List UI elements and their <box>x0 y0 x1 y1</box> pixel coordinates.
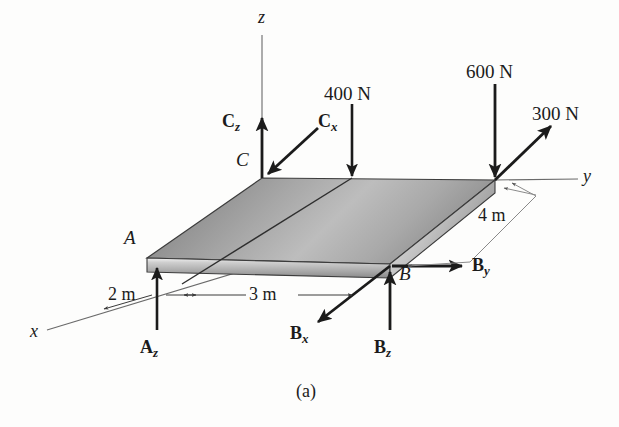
y-axis-label: y <box>583 167 591 185</box>
plate-top-face <box>147 178 495 264</box>
figure-canvas: z y x A B C 400 N 600 N 300 N Cz Cx Az B… <box>0 0 619 427</box>
reaction-az-label: Az <box>140 338 158 360</box>
reaction-cz-label: Cz <box>222 112 240 134</box>
x-axis-label: x <box>30 322 38 340</box>
reaction-cz-base: C <box>222 111 235 131</box>
reaction-bz-base: B <box>374 337 386 357</box>
y-axis-line <box>495 179 578 180</box>
reaction-cx-sub: x <box>331 119 337 134</box>
reaction-by-label: By <box>472 256 490 278</box>
load-600n-label: 600 N <box>466 62 513 81</box>
reaction-az-base: A <box>140 337 153 357</box>
diagram-svg <box>0 0 619 427</box>
load-300n-label: 300 N <box>532 104 579 123</box>
reaction-cz-sub: z <box>235 119 240 134</box>
dimension-3m-label: 3 m <box>249 285 277 303</box>
reaction-cx-label: Cx <box>318 112 337 134</box>
reaction-bx-sub: x <box>302 331 308 346</box>
reaction-by-sub: y <box>484 263 490 278</box>
y-axis-tick-leader <box>512 183 536 196</box>
reaction-bz-sub: z <box>386 345 391 360</box>
point-b-label: B <box>399 264 411 283</box>
load-300n-arrow <box>495 126 551 180</box>
load-400n-label: 400 N <box>324 84 371 103</box>
reaction-cx-arrow <box>268 128 318 174</box>
reaction-bx-label: Bx <box>290 324 309 346</box>
reaction-az-sub: z <box>153 345 158 360</box>
z-axis-label: z <box>258 8 265 26</box>
reaction-cx-base: C <box>318 111 331 131</box>
figure-caption: (a) <box>296 382 316 400</box>
reaction-bx-base: B <box>290 323 302 343</box>
dimension-4m-label: 4 m <box>478 206 506 224</box>
reaction-bz-label: Bz <box>374 338 391 360</box>
dimension-2m-label: 2 m <box>108 285 136 303</box>
point-a-label: A <box>124 228 136 247</box>
reaction-by-base: B <box>472 255 484 275</box>
point-c-label: C <box>236 150 249 169</box>
rectangular-plate <box>147 178 495 284</box>
